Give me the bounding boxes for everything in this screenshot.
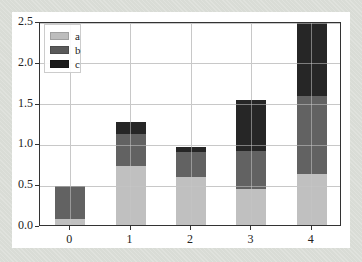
x-tick-label: 1 [120,232,140,247]
legend-swatch [50,32,69,40]
gridline-horizontal [40,63,340,64]
gridline-horizontal [40,23,340,24]
gridline-horizontal [40,145,340,146]
x-tick-label: 0 [59,232,79,247]
gridline-vertical [311,23,312,225]
y-tick-label: 2.0 [3,55,33,70]
y-tick-label: 0.5 [3,177,33,192]
x-tick-mark [130,226,131,230]
legend-item-a: a [50,31,80,41]
y-tick-label: 1.5 [3,96,33,111]
gridline-vertical [191,23,192,225]
x-tick-mark [250,226,251,230]
legend-swatch [50,60,69,68]
x-tick-mark [311,226,312,230]
gridline-vertical [130,23,131,225]
y-tick-label: 2.5 [3,14,33,29]
x-tick-label: 2 [180,232,200,247]
legend-label: a [75,31,80,41]
x-tick-mark [69,226,70,230]
gridline-horizontal [40,104,340,105]
legend: abc [44,24,81,73]
legend-label: b [75,45,81,55]
y-tick-mark [35,226,39,227]
plot-area [39,22,341,226]
x-tick-label: 3 [240,232,260,247]
legend-item-b: b [50,45,81,55]
legend-swatch [50,46,69,54]
legend-label: c [75,59,80,69]
x-tick-mark [190,226,191,230]
x-tick-label: 4 [301,232,321,247]
gridline-horizontal [40,186,340,187]
y-tick-label: 0.0 [3,218,33,233]
gridline-vertical [251,23,252,225]
y-tick-label: 1.0 [3,136,33,151]
legend-item-c: c [50,59,80,69]
